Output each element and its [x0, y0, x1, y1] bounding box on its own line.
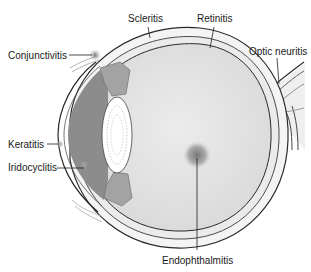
label-conjunctivitis: Conjunctivitis	[8, 50, 67, 62]
label-retinitis: Retinitis	[197, 13, 233, 25]
label-keratitis: Keratitis	[8, 139, 44, 151]
lens	[102, 97, 132, 173]
label-endophthalmitis: Endophthalmitis	[162, 255, 233, 267]
label-iridocyclitis: Iridocyclitis	[8, 162, 57, 174]
label-scleritis: Scleritis	[128, 13, 163, 25]
eye-cross-section	[0, 0, 311, 272]
eye-diagram: Conjunctivitis Scleritis Retinitis Optic…	[0, 0, 311, 272]
label-optic-neuritis: Optic neuritis	[249, 46, 307, 58]
